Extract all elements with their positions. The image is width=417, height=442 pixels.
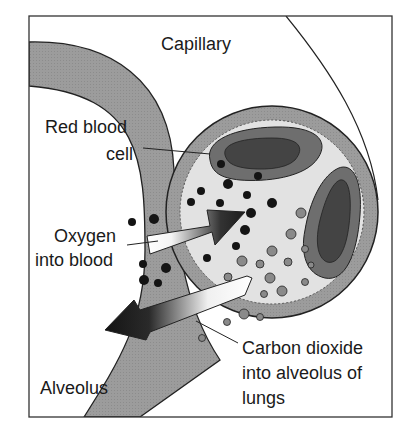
label-red-blood-cell-1: Red blood: [45, 117, 127, 137]
label-co2-3: lungs: [242, 388, 285, 408]
label-oxygen-2: into blood: [35, 250, 113, 270]
label-alveolus: Alveolus: [40, 378, 108, 398]
label-capillary: Capillary: [161, 34, 231, 54]
label-red-blood-cell-2: cell: [106, 144, 133, 164]
label-co2-1: Carbon dioxide: [242, 338, 363, 358]
gas-exchange-diagram: Capillary Red blood cell Oxygen into blo…: [0, 0, 417, 442]
label-oxygen-1: Oxygen: [54, 226, 116, 246]
label-co2-2: into alveolus of: [242, 363, 363, 383]
